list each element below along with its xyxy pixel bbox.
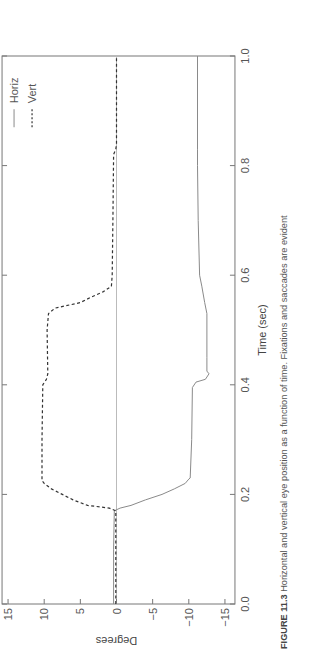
degree-tick-label: −15: [219, 608, 231, 627]
degree-tick-label: −5: [147, 608, 159, 621]
time-tick-label: 0.2: [239, 487, 251, 502]
x-axis-label: Time (sec): [256, 304, 268, 356]
plot-area: [2, 56, 235, 604]
legend-vert-label: Vert: [26, 84, 38, 104]
degree-tick-label: 10: [38, 608, 50, 620]
figure-caption-text: Horizontal and vertical eye position as …: [279, 215, 289, 592]
figure-number: FIGURE 11.3: [279, 594, 289, 649]
y-axis-label: Degrees: [95, 635, 137, 647]
plot-frame: [2, 56, 235, 604]
time-tick-label: 0.4: [239, 377, 251, 392]
series-horiz-line: [114, 56, 209, 604]
legend-horiz-label: Horiz: [8, 78, 20, 104]
time-tick-label: 0.0: [239, 596, 251, 611]
degrees-axis-ticks: 151050−5−10−15: [2, 599, 231, 627]
degree-tick-label: −10: [183, 608, 195, 627]
rotated-figure: 0.00.20.40.60.81.0 151050−5−10−15 Time (…: [0, 0, 310, 653]
time-tick-label: 1.0: [239, 48, 251, 63]
degree-tick-label: 5: [74, 608, 86, 614]
figure-caption: FIGURE 11.3 Horizontal and vertical eye …: [279, 215, 289, 649]
degree-tick-label: 15: [2, 608, 14, 620]
eye-position-chart: 0.00.20.40.60.81.0 151050−5−10−15 Time (…: [0, 0, 310, 653]
series-vert-line: [42, 56, 117, 604]
legend: Horiz Vert: [8, 78, 38, 128]
time-axis-ticks: 0.00.20.40.60.81.0: [2, 48, 251, 611]
time-tick-label: 0.8: [239, 158, 251, 173]
degree-tick-label: 0: [111, 608, 123, 614]
time-tick-label: 0.6: [239, 268, 251, 283]
